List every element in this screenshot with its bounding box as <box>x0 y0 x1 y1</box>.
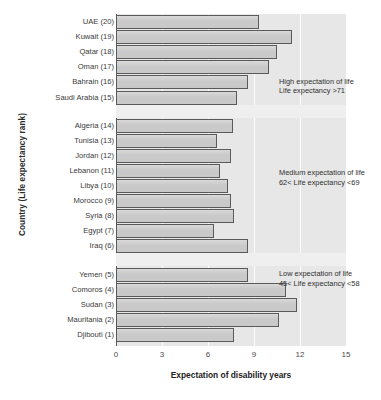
group-annotation-medium-line1: Medium expectation of life <box>279 168 365 178</box>
group-annotation-low-line2: 45< Life expectancy <58 <box>279 279 360 289</box>
category-label: Comoros (4) <box>10 286 114 294</box>
bar <box>116 45 277 59</box>
x-axis-tick-row: 03691215 <box>116 350 346 364</box>
bar <box>116 239 248 253</box>
category-label: Iraq (6) <box>10 242 114 250</box>
category-label: Syria (8) <box>10 212 114 220</box>
bar <box>116 313 279 327</box>
category-label: Jordan (12) <box>10 152 114 160</box>
bar <box>116 224 214 238</box>
bar <box>116 179 228 193</box>
group-separator-band <box>116 105 346 118</box>
bar <box>116 149 231 163</box>
category-label: Bahrain (16) <box>10 78 114 86</box>
category-label: Oman (17) <box>10 63 114 71</box>
bar <box>116 134 217 148</box>
category-label: Tunisia (13) <box>10 137 114 145</box>
category-label: Mauritania (2) <box>10 316 114 324</box>
category-label: Djibouti (1) <box>10 331 114 339</box>
group-annotation-medium-line2: 62< Life expectancy <69 <box>279 178 365 188</box>
category-label: Kuwait (19) <box>10 33 114 41</box>
disability-years-bar-chart: Country (Life expectancy rank) UAE (20)K… <box>0 0 381 400</box>
bar <box>116 164 220 178</box>
category-label-column: UAE (20)Kuwait (19)Qatar (18)Oman (17)Ba… <box>10 14 114 346</box>
group-annotation-low-line1: Low expectation of life <box>279 269 360 279</box>
category-label: Morocco (9) <box>10 197 114 205</box>
category-label: Yemen (5) <box>10 271 114 279</box>
x-tick-label: 12 <box>296 350 305 359</box>
bar <box>116 209 234 223</box>
x-tick-label: 15 <box>342 350 351 359</box>
group-annotation-high-line1: High expectation of life <box>279 77 354 87</box>
x-tick-label: 9 <box>252 350 256 359</box>
bar <box>116 268 248 282</box>
bar <box>116 328 234 342</box>
category-label: Lebanon (11) <box>10 167 114 175</box>
group-separator-band <box>116 253 346 266</box>
bar <box>116 30 292 44</box>
bar <box>116 119 233 133</box>
x-tick-label: 0 <box>114 350 118 359</box>
bar <box>116 60 269 74</box>
bar <box>116 91 237 105</box>
x-axis-title: Expectation of disability years <box>116 370 346 380</box>
group-annotation-high-line2: Life expectancy >71 <box>279 86 354 96</box>
bar <box>116 194 231 208</box>
category-label: Saudi Arabia (15) <box>10 94 114 102</box>
category-label: Libya (10) <box>10 182 114 190</box>
bar <box>116 15 259 29</box>
category-label: UAE (20) <box>10 18 114 26</box>
category-label: Sudan (3) <box>10 301 114 309</box>
group-annotation-medium: Medium expectation of life 62< Life expe… <box>279 168 365 187</box>
category-label: Algeria (14) <box>10 122 114 130</box>
x-tick-label: 3 <box>160 350 164 359</box>
bar <box>116 298 297 312</box>
category-label: Qatar (18) <box>10 48 114 56</box>
group-annotation-high: High expectation of life Life expectancy… <box>279 77 354 96</box>
bar <box>116 283 286 297</box>
category-label: Egypt (7) <box>10 227 114 235</box>
bar <box>116 75 248 89</box>
x-tick-label: 6 <box>206 350 210 359</box>
group-annotation-low: Low expectation of life 45< Life expecta… <box>279 269 360 288</box>
